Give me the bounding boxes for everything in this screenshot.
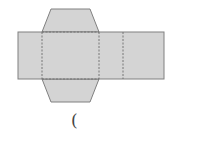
bottom-flap: [42, 79, 99, 102]
net-faces: [18, 9, 164, 102]
main-face-strip: [18, 32, 164, 79]
answer-bracket: (: [71, 112, 78, 129]
top-flap: [42, 9, 99, 32]
net-diagram: [0, 0, 207, 145]
